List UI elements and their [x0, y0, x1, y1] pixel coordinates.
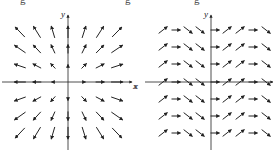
vector-arrow — [112, 128, 122, 138]
vector-arrow — [223, 27, 232, 34]
vector-arrow — [33, 112, 41, 120]
vector-arrow — [184, 96, 193, 103]
vector-arrow — [82, 45, 86, 54]
vector-arrow — [51, 127, 55, 139]
vector-arrow — [159, 130, 168, 137]
vector-arrow — [262, 130, 271, 137]
vector-arrow — [14, 112, 25, 120]
vector-arrow — [14, 64, 25, 68]
vector-arrow — [96, 127, 103, 139]
vector-arrow — [33, 64, 41, 68]
x-axis-label: x — [133, 81, 138, 91]
vector-field-figure: ggg yx yx — [0, 0, 273, 156]
cropped-caption-text: ggg — [20, 0, 200, 5]
vector-arrow — [159, 44, 168, 51]
y-axis-label: y — [60, 9, 65, 19]
vector-arrow — [184, 44, 193, 51]
vector-arrow — [223, 44, 232, 51]
vector-arrow — [196, 130, 205, 137]
vector-arrow — [15, 128, 25, 138]
vector-arrow — [159, 27, 168, 34]
vector-arrow — [112, 27, 122, 37]
vector-arrow — [262, 27, 271, 34]
vector-arrow — [223, 130, 232, 137]
vector-arrow — [14, 97, 25, 101]
vector-arrow — [236, 27, 245, 34]
vector-arrow — [82, 112, 86, 121]
vector-arrow — [236, 113, 245, 120]
cropped-text: g — [125, 0, 131, 5]
vector-arrow — [51, 26, 55, 38]
cropped-text: g — [20, 0, 26, 5]
vector-arrow — [223, 96, 232, 103]
vector-arrow — [184, 61, 193, 68]
vector-arrow — [196, 44, 205, 51]
vector-arrow — [111, 97, 123, 101]
vector-arrow — [236, 44, 245, 51]
vector-arrow — [51, 63, 56, 68]
vector-arrow — [159, 96, 168, 103]
vector-arrow — [96, 45, 104, 53]
vector-arrow — [184, 113, 193, 120]
vector-arrow — [33, 26, 40, 38]
vector-arrow — [236, 96, 245, 103]
vector-arrow — [51, 45, 55, 54]
vector-arrow — [262, 113, 271, 120]
vector-arrow — [262, 61, 271, 68]
vector-arrow — [82, 127, 86, 139]
vector-arrow — [82, 96, 87, 101]
vector-arrow — [223, 61, 232, 68]
vector-arrow — [51, 96, 56, 101]
vector-arrow — [223, 113, 232, 120]
vector-arrow — [236, 130, 245, 137]
vector-arrow — [196, 61, 205, 68]
right-vector-field-plot: yx — [133, 9, 273, 150]
vector-arrow — [96, 64, 104, 68]
vector-arrow — [96, 97, 104, 101]
vector-arrow — [111, 112, 122, 120]
vector-arrow — [33, 97, 41, 102]
vector-arrow — [82, 26, 86, 38]
vector-arrow — [111, 64, 123, 68]
vector-arrow — [81, 63, 86, 68]
vector-arrow — [159, 113, 168, 120]
vector-arrow — [51, 112, 55, 121]
vector-arrow — [33, 45, 41, 53]
vector-arrow — [15, 27, 25, 37]
vector-arrow — [96, 26, 103, 38]
left-vector-field-plot: yx — [2, 9, 137, 150]
vector-arrow — [184, 130, 193, 137]
vector-arrow — [159, 61, 168, 68]
vector-arrow — [236, 61, 245, 68]
vector-arrow — [14, 45, 25, 53]
vector-arrow — [262, 96, 271, 103]
vector-arrow — [196, 113, 205, 120]
vector-arrow — [96, 112, 104, 120]
cropped-text: g — [194, 0, 200, 5]
vector-arrow — [111, 45, 122, 53]
vector-arrow — [184, 27, 193, 34]
vector-arrow — [196, 27, 205, 34]
vector-arrow — [33, 127, 40, 139]
y-axis-label: y — [203, 9, 208, 19]
vector-arrow — [196, 96, 205, 103]
vector-arrow — [262, 44, 271, 51]
